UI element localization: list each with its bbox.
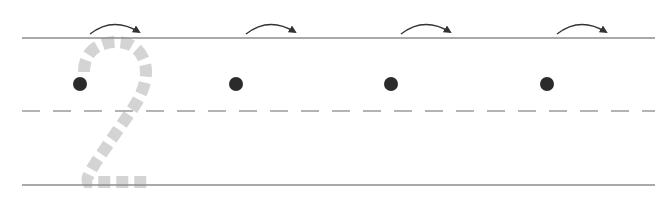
- trace-digit-2: [84, 42, 150, 182]
- start-dot-4: [540, 77, 554, 91]
- start-dot-3: [384, 77, 398, 91]
- start-dot-1: [73, 77, 87, 91]
- arrow-right-icon: [246, 24, 295, 34]
- arrow-right-icon: [401, 24, 450, 34]
- tracing-worksheet: [0, 0, 671, 204]
- arrow-right-icon: [90, 24, 139, 34]
- start-dot-2: [229, 77, 243, 91]
- arrow-right-icon: [557, 24, 606, 34]
